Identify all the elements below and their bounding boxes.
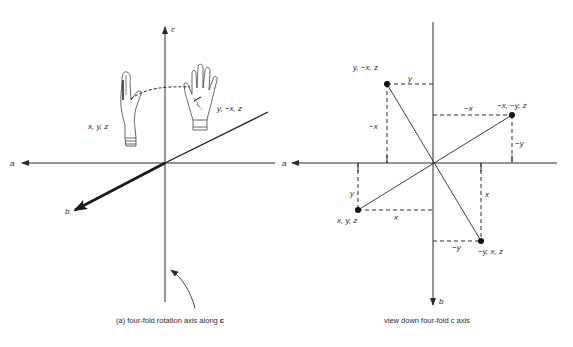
point-3-dx-label: x	[393, 213, 399, 222]
right-caption: view down four-fold c axis	[384, 316, 470, 325]
point-1-dx-label: y	[407, 74, 413, 83]
left-caption: (a) four-fold rotation axis along c	[116, 316, 224, 325]
right-panel: b a y, −x, z	[282, 22, 557, 325]
point-1	[384, 81, 390, 87]
pointer-arrow	[171, 270, 195, 308]
point-2-label: −x, −y, z	[497, 101, 527, 110]
point-4-label: −y, x, z	[478, 247, 503, 256]
b-axis-right-label: b	[439, 297, 444, 306]
point-2-dy-label: −y	[515, 139, 525, 148]
hand-original-label: x, y, z	[87, 122, 108, 131]
c-axis-label: c	[171, 25, 175, 34]
hand-rotated-icon	[184, 64, 217, 130]
point-4	[478, 238, 484, 244]
a-axis-label: a	[10, 159, 15, 168]
b-axis-back	[165, 112, 268, 163]
point-3-dy-label: y	[349, 189, 355, 198]
hand-rotated-label: y, −x, z	[216, 104, 242, 113]
point-1-dy-label: −x	[369, 122, 379, 131]
point-4-dx-label: −y	[452, 243, 462, 252]
hand-original-icon	[121, 72, 141, 146]
point-1-label: y, −x, z	[352, 63, 378, 72]
point-3	[355, 207, 361, 213]
left-panel: c a b x, y, z y, −x, z	[10, 25, 275, 325]
point-3-label: x, y, z	[336, 216, 357, 225]
a-axis-right-label: a	[282, 159, 287, 168]
b-axis	[75, 163, 165, 210]
b-axis-label: b	[65, 207, 70, 216]
point-2	[509, 112, 515, 118]
point-4-dy-label: x	[484, 190, 490, 199]
figure-canvas: c a b x, y, z y, −x, z	[0, 0, 573, 347]
point-2-dx-label: −x	[464, 104, 474, 113]
